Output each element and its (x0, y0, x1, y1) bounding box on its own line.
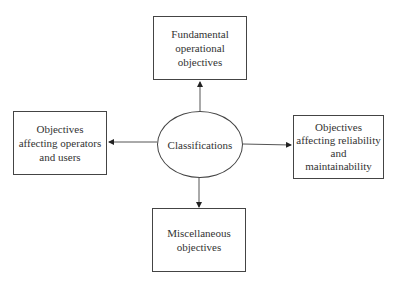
center-classifications: Classifications (157, 111, 243, 178)
node-fundamental-operational: Fundamental operational objectives (153, 16, 247, 80)
node-label: Objectives affecting reliability and mai… (296, 121, 380, 173)
node-label: Fundamental operational objectives (171, 27, 228, 69)
arrow-to-right (243, 144, 291, 145)
node-label: Objectives affecting operators and users (19, 122, 102, 164)
node-label: Miscellaneous objectives (167, 226, 231, 254)
node-reliability-maintainability: Objectives affecting reliability and mai… (293, 115, 384, 179)
node-operators-users: Objectives affecting operators and users (13, 111, 107, 175)
center-label: Classifications (168, 139, 233, 151)
node-miscellaneous: Miscellaneous objectives (152, 208, 246, 272)
